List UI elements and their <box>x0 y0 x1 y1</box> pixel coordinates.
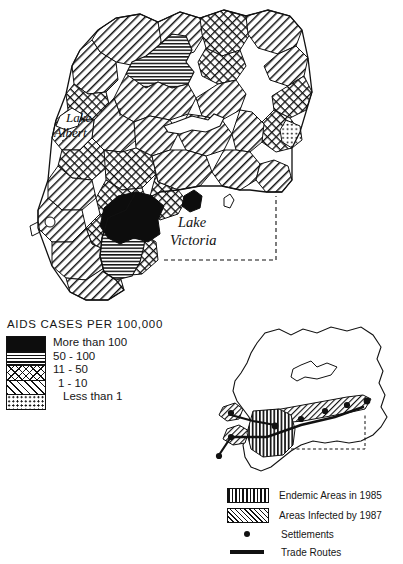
trade-route-line-icon <box>227 550 267 553</box>
lake-victoria-label: Lake Victoria <box>170 214 216 248</box>
legend-title: AIDS CASES PER 100,000 <box>7 318 196 330</box>
legend-label-less-than-1: Less than 1 <box>53 390 127 404</box>
lake-victoria-label-line1: Lake <box>177 214 207 230</box>
inset-endemic-area-1985 <box>247 409 295 457</box>
endemic-areas-label: Endemic Areas in 1985 <box>279 490 382 501</box>
legend-swatch-50-100 <box>7 352 45 367</box>
legend-label-11-50: 11 - 50 <box>53 363 127 377</box>
lake-albert-label-line2: Albert <box>53 125 87 140</box>
small-lake <box>45 217 55 227</box>
district-area <box>232 110 264 152</box>
small-lake <box>224 194 234 208</box>
lake-victoria-label-line2: Victoria <box>170 232 216 248</box>
legend-swatch-11-50 <box>7 366 45 381</box>
legend-swatch-column <box>6 336 46 410</box>
legend-swatch-less-than-1 <box>7 395 45 409</box>
settlement-dot <box>322 408 328 414</box>
endemic-areas-swatch <box>227 488 269 503</box>
legend-swatch-more-than-100 <box>7 337 45 352</box>
map-figure: Lake Albert Lake Victoria AIDS CASES PER… <box>0 0 403 564</box>
choropleth-legend: AIDS CASES PER 100,000 More than 100 50 … <box>6 318 196 410</box>
lake-albert-label-line1: Lake <box>65 110 92 125</box>
main-map-svg: Lake Albert Lake Victoria <box>0 0 403 310</box>
settlements-label: Settlements <box>281 529 334 540</box>
inset-legend-row-endemic: Endemic Areas in 1985 <box>227 486 403 504</box>
settlement-dot <box>344 402 350 408</box>
trade-routes-label: Trade Routes <box>281 547 341 558</box>
settlement-dot <box>216 453 222 459</box>
main-choropleth-map: Lake Albert Lake Victoria <box>0 0 403 310</box>
legend-label-50-100: 50 - 100 <box>53 350 127 364</box>
legend-label-column: More than 100 50 - 100 11 - 50 1 - 10 Le… <box>53 336 127 410</box>
legend-label-more-than-100: More than 100 <box>53 336 127 350</box>
infected-areas-swatch <box>227 508 269 523</box>
settlement-dot <box>272 423 279 430</box>
inset-legend: Endemic Areas in 1985 Areas Infected by … <box>227 486 403 562</box>
infected-areas-label: Areas Infected by 1987 <box>279 510 382 521</box>
settlement-dot <box>364 398 371 405</box>
settlement-dot-icon <box>227 531 267 537</box>
district-area-highest <box>182 190 202 212</box>
inset-legend-row-infected: Areas Infected by 1987 <box>227 506 403 524</box>
inset-map-svg <box>205 325 403 475</box>
settlement-dot <box>228 434 234 440</box>
legend-label-1-10: 1 - 10 <box>53 377 127 391</box>
legend-swatch-1-10 <box>7 381 45 396</box>
district-polygons <box>38 10 312 300</box>
settlement-dot <box>298 416 304 422</box>
inset-legend-row-settlements: Settlements <box>227 526 403 542</box>
settlement-dot <box>228 410 234 416</box>
legend-rows: More than 100 50 - 100 11 - 50 1 - 10 Le… <box>6 336 196 410</box>
inset-legend-row-trade-routes: Trade Routes <box>227 544 403 560</box>
inset-map <box>205 325 403 475</box>
district-area <box>212 150 260 190</box>
